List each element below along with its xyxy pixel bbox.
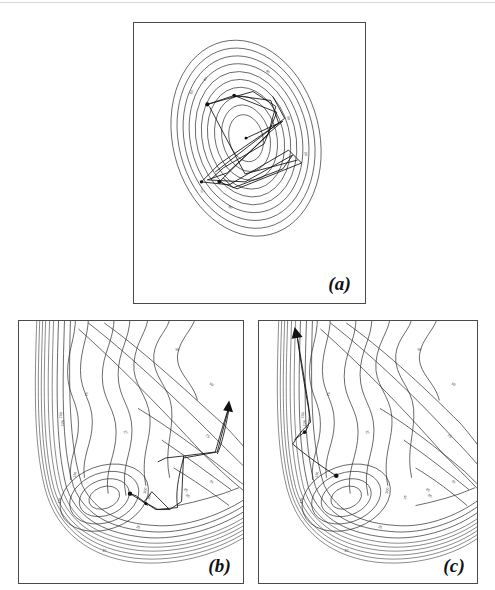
svg-text:100: 100 [301,412,306,418]
svg-text:200: 200 [147,493,152,500]
panel-a-label: (a) [328,274,351,293]
svg-text:10: 10 [344,548,348,552]
svg-text:10: 10 [102,548,106,552]
svg-text:25: 25 [451,479,456,484]
svg-text:25: 25 [209,479,214,484]
svg-text:60: 60 [265,69,271,75]
svg-text:75: 75 [84,392,89,397]
svg-text:50: 50 [209,382,214,387]
svg-text:30: 30 [286,115,291,120]
svg-text:50: 50 [417,347,421,351]
svg-text:125: 125 [61,420,66,426]
svg-text:100: 100 [59,412,64,418]
svg-text:25: 25 [185,493,190,498]
figure-root: 50 40 60 30 20 70 80 (a) [0,0,495,590]
svg-text:175: 175 [58,497,63,503]
panel-b-plot: 75 100 125 75 150 175 200 200 50 50 75 2… [19,321,243,583]
svg-text:25: 25 [378,525,383,530]
svg-text:20: 20 [304,152,308,156]
panel-c: 75 100 125 75 150 175 200 50 50 75 25 25… [258,320,478,584]
svg-text:175: 175 [300,497,305,503]
top-rule [0,2,495,3]
svg-text:200: 200 [385,487,390,494]
svg-text:25: 25 [403,495,408,500]
svg-text:75: 75 [205,434,210,440]
svg-text:50: 50 [189,90,194,96]
svg-text:25: 25 [136,525,141,530]
panel-b: 75 100 125 75 150 175 200 200 50 50 75 2… [18,320,244,584]
svg-text:25: 25 [183,487,188,492]
panel-a: 50 40 60 30 20 70 80 (a) [133,22,366,304]
panel-a-plot: 50 40 60 30 20 70 80 [134,23,365,303]
svg-text:25: 25 [427,493,432,498]
svg-text:75: 75 [365,430,370,435]
svg-text:70: 70 [199,188,205,194]
panel-c-label: (c) [443,556,465,575]
panel-c-plot: 75 100 125 75 150 175 200 50 50 75 25 25… [259,321,477,583]
svg-text:80: 80 [228,205,233,210]
svg-text:40: 40 [203,77,208,82]
svg-text:75: 75 [326,392,331,397]
svg-text:50: 50 [175,348,179,352]
svg-text:75: 75 [447,434,452,440]
panel-b-label: (b) [208,556,231,575]
svg-text:75: 75 [123,430,128,435]
svg-text:125: 125 [303,420,308,426]
svg-text:50: 50 [451,382,456,387]
svg-text:200: 200 [143,487,148,494]
svg-text:25: 25 [425,487,430,492]
